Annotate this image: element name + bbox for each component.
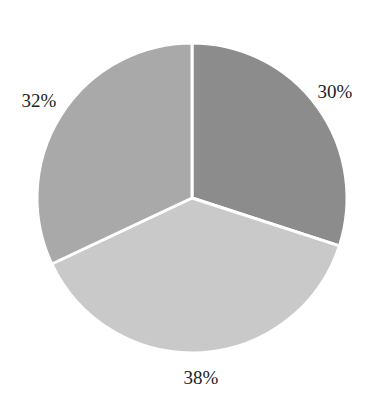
slice-label-32: 32% [22, 90, 57, 111]
pie-chart: 30% 38% 32% [0, 0, 385, 402]
slice-label-38: 38% [184, 367, 219, 388]
pie-slices [37, 43, 347, 353]
slice-label-30: 30% [318, 81, 353, 102]
